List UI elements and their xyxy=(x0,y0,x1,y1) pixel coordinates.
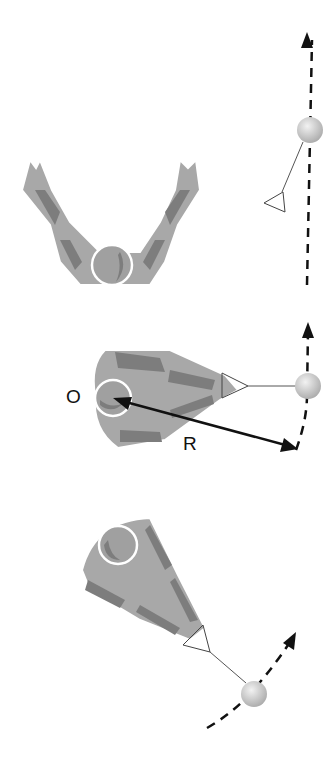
direction-arrow-3 xyxy=(283,632,296,650)
hammer-ball-3 xyxy=(241,681,267,707)
panel-2 xyxy=(94,322,321,452)
panel-3 xyxy=(82,518,296,728)
radius-label: R xyxy=(183,433,197,455)
direction-arrow-2 xyxy=(302,322,314,338)
hammer-ball-2 xyxy=(295,373,321,399)
athlete-figure-1 xyxy=(22,160,200,285)
radius-arrowhead-edge xyxy=(280,438,298,452)
center-label: O xyxy=(66,386,81,408)
hammer-wire-3 xyxy=(210,652,246,683)
athlete-figure-3 xyxy=(82,518,205,640)
trajectory-path-1 xyxy=(307,40,312,285)
panel-1 xyxy=(22,32,323,285)
hammer-handle-1 xyxy=(264,192,285,212)
hammer-wire-1 xyxy=(282,142,303,192)
hammer-ball-1 xyxy=(297,117,323,143)
hammer-throw-diagram xyxy=(0,0,331,762)
